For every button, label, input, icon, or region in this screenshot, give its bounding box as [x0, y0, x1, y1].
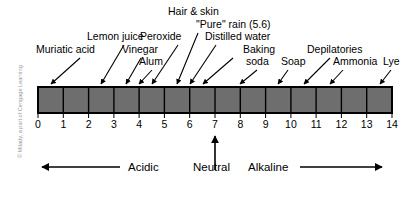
axis-label-2: 2	[78, 119, 100, 130]
axis-label-5: 5	[153, 119, 175, 130]
ph-scale-figure: Muriatic acid Lemon juice Vinegar Alum P…	[0, 0, 420, 197]
axis-label-0: 0	[27, 119, 49, 130]
axis-label-13: 13	[356, 119, 378, 130]
label-distilled-water: Distilled water	[205, 31, 270, 43]
label-muriatic-acid: Muriatic acid	[36, 44, 95, 56]
leader-lemon-juice	[101, 45, 124, 84]
leader-depilatories	[304, 58, 330, 84]
leader-alum	[139, 70, 152, 84]
zone-label-alkaline: Alkaline	[248, 161, 288, 173]
label-peroxide: Peroxide	[140, 31, 181, 43]
zone-label-acidic: Acidic	[128, 161, 159, 173]
label-baking-soda-line1: Baking	[243, 44, 275, 56]
axis-label-14: 14	[381, 119, 403, 130]
axis-label-3: 3	[103, 119, 125, 130]
leader-lye	[380, 70, 391, 84]
label-depilatories: Depilatories	[307, 44, 362, 56]
axis-label-10: 10	[280, 119, 302, 130]
axis-label-8: 8	[229, 119, 251, 130]
axis-label-12: 12	[330, 119, 352, 130]
leader-muriatic-acid	[51, 58, 80, 84]
label-lemon-juice: Lemon juice	[87, 31, 144, 43]
axis-label-11: 11	[305, 119, 327, 130]
label-ammonia: Ammonia	[333, 56, 377, 68]
label-pure-rain: "Pure" rain (5.6)	[196, 19, 271, 31]
axis-label-9: 9	[255, 119, 277, 130]
leader-ammonia	[330, 70, 343, 84]
label-hair-skin: Hair & skin	[168, 6, 219, 18]
label-alum: Alum	[139, 56, 163, 68]
ph-bar	[38, 87, 392, 113]
leader-soap	[278, 70, 288, 84]
label-lye: Lye	[383, 56, 400, 68]
label-vinegar: Vinegar	[122, 44, 158, 56]
label-baking-soda-line2: soda	[246, 56, 269, 68]
axis-label-6: 6	[179, 119, 201, 130]
axis-label-4: 4	[128, 119, 150, 130]
zone-label-neutral: Neutral	[193, 161, 230, 173]
axis-label-7: 7	[204, 119, 226, 130]
leader-pure-rain	[190, 45, 216, 84]
axis-label-1: 1	[52, 119, 74, 130]
label-soap: Soap	[281, 56, 306, 68]
leader-baking-soda	[240, 70, 257, 84]
leader-distilled-water	[203, 58, 233, 84]
copyright-credit: © Milady, a part of Cengage Learning	[17, 52, 24, 172]
